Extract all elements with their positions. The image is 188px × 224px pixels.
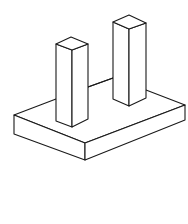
base-slab xyxy=(14,78,185,160)
isometric-slab-with-two-pillars-diagram xyxy=(0,0,188,224)
left-pillar-left-face xyxy=(56,44,72,127)
left-pillar-right-face xyxy=(72,44,88,127)
right-pillar xyxy=(113,15,146,106)
left-pillar xyxy=(56,37,88,127)
right-pillar-right-face xyxy=(129,23,146,106)
right-pillar-left-face xyxy=(113,22,129,106)
